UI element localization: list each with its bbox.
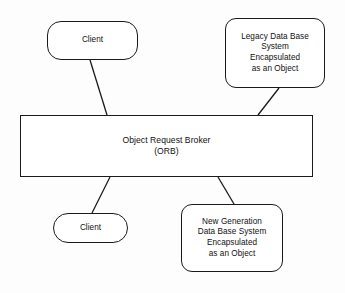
node-legacy-database-label: Legacy Data Base System Encapsulated as … xyxy=(237,32,313,74)
node-client-bottom-label: Client xyxy=(76,223,105,234)
node-object-request-broker[interactable]: Object Request Broker (ORB) xyxy=(20,115,313,177)
node-object-request-broker-label: Object Request Broker (ORB) xyxy=(119,135,215,158)
node-new-generation-database[interactable]: New Generation Data Base System Encapsul… xyxy=(181,204,283,272)
node-new-generation-database-label: New Generation Data Base System Encapsul… xyxy=(194,217,271,259)
node-client-top-label: Client xyxy=(78,35,107,46)
connector-client-top-to-orb xyxy=(90,60,107,115)
node-client-bottom[interactable]: Client xyxy=(53,213,128,243)
diagram-canvas: Client Legacy Data Base System Encapsula… xyxy=(0,0,345,293)
connector-legacy-db-to-orb xyxy=(258,88,279,115)
connector-orb-to-newgen-db xyxy=(218,177,234,204)
connector-orb-to-client-bottom xyxy=(92,177,110,213)
node-client-top[interactable]: Client xyxy=(47,21,138,60)
node-legacy-database[interactable]: Legacy Data Base System Encapsulated as … xyxy=(225,18,325,88)
